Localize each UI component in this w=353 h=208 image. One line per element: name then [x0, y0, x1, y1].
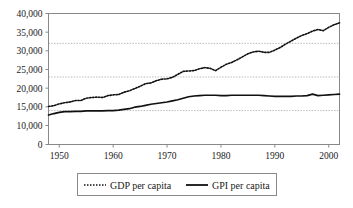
y-axis-tick-label: 25,000 [16, 65, 42, 75]
x-axis-tick-label: 1980 [211, 151, 230, 161]
series-line-gdp-per-capita [49, 23, 340, 107]
y-axis-tick-label: 35,000 [16, 28, 42, 38]
y-axis-tick-label: 20,000 [16, 84, 42, 94]
y-axis-tick-label: 30,000 [16, 46, 42, 56]
gridlines [49, 43, 340, 110]
legend-label-gdp: GDP per capita [110, 180, 172, 191]
plot-frame [49, 14, 340, 145]
y-axis-tick-label: 40,000 [16, 9, 42, 19]
y-axis-tick-label: 15,000 [16, 102, 42, 112]
y-axis-labels: 010,00015,00020,00025,00030,00035,00040,… [16, 9, 42, 150]
x-axis-labels: 195019601970198019902000 [50, 151, 339, 161]
x-axis-tick-label: 2000 [319, 151, 338, 161]
x-axis-tick-label: 1970 [158, 151, 177, 161]
legend-label-gpi: GPI per capita [212, 180, 270, 191]
chart-container: 010,00015,00020,00025,00030,00035,00040,… [0, 0, 353, 208]
x-axis-tick-label: 1950 [50, 151, 69, 161]
y-axis-tick-label: 0 [38, 140, 43, 150]
legend: GDP per capita GPI per capita [78, 174, 277, 196]
y-axis-tick-label: 10,000 [16, 121, 42, 131]
x-axis-tick-label: 1990 [265, 151, 284, 161]
line-chart: 010,00015,00020,00025,00030,00035,00040,… [0, 0, 353, 208]
x-axis-tick-label: 1960 [104, 151, 123, 161]
